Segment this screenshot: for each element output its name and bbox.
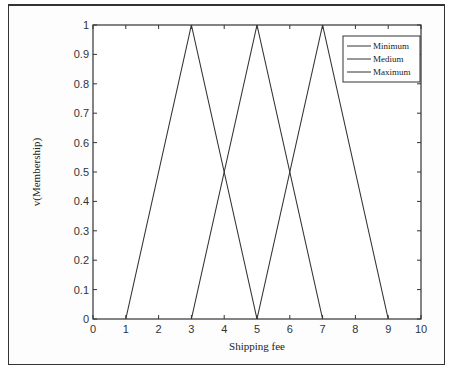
x-tick-label: 3	[188, 323, 194, 335]
x-tick-label: 7	[320, 323, 326, 335]
x-tick-label: 5	[254, 323, 260, 335]
y-tick-label: 0.2	[74, 254, 89, 266]
y-tick-label: 1	[83, 19, 89, 31]
x-tick-label: 2	[156, 323, 162, 335]
legend-label-minimum: Minimum	[373, 41, 409, 51]
x-tick-label: 0	[90, 323, 96, 335]
y-tick-label: 0.5	[74, 166, 89, 178]
x-tick-label: 10	[415, 323, 427, 335]
x-tick-label: 8	[352, 323, 358, 335]
y-tick-label: 0	[83, 313, 89, 325]
y-tick-label: 0.9	[74, 48, 89, 60]
y-tick-label: 0.8	[74, 78, 89, 90]
y-tick-label: 0.1	[74, 284, 89, 296]
x-axis-label: Shipping fee	[229, 340, 285, 352]
y-axis-label: v(Membership)	[30, 137, 43, 206]
x-tick-label: 9	[385, 323, 391, 335]
y-tick-label: 0.4	[74, 195, 89, 207]
legend-label-maximum: Maximum	[373, 67, 411, 77]
x-tick-label: 6	[287, 323, 293, 335]
x-tick-label: 4	[221, 323, 227, 335]
y-tick-label: 0.3	[74, 225, 89, 237]
y-tick-label: 0.6	[74, 137, 89, 149]
y-tick-label: 0.7	[74, 107, 89, 119]
x-tick-label: 1	[123, 323, 129, 335]
membership-chart: 01234567891000.10.20.30.40.50.60.70.80.9…	[0, 0, 452, 372]
legend-label-medium: Medium	[373, 54, 404, 64]
